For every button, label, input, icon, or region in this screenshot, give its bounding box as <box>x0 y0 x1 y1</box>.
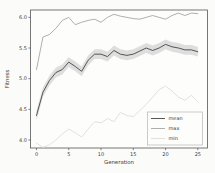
legend-label-max: max <box>169 125 180 131</box>
x-axis-label: Generation <box>104 159 134 165</box>
y-tick-label: 4.5 <box>19 106 27 112</box>
x-tick-label: 0 <box>35 151 38 157</box>
y-tick-label: 5.0 <box>19 75 27 81</box>
y-tick-label: 6.0 <box>19 14 27 20</box>
x-tick-label: 20 <box>162 151 168 157</box>
y-tick-label: 4.0 <box>19 137 27 143</box>
x-tick-label: 5 <box>67 151 70 157</box>
legend-label-min: min <box>169 135 178 141</box>
fitness-chart-figure: 05101520254.04.55.05.56.0GenerationFitne… <box>0 0 215 173</box>
fitness-line-chart: 05101520254.04.55.05.56.0GenerationFitne… <box>0 0 215 173</box>
x-tick-label: 10 <box>98 151 104 157</box>
legend-label-mean: mean <box>169 115 183 121</box>
y-axis-label: Fitness <box>4 69 10 88</box>
x-tick-label: 15 <box>130 151 136 157</box>
y-tick-label: 5.5 <box>19 45 27 51</box>
x-tick-label: 25 <box>195 151 201 157</box>
